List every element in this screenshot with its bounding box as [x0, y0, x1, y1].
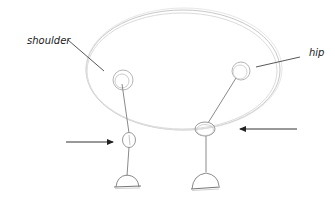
lower-front-leg [127, 147, 129, 176]
shoulder-label: shoulder [27, 36, 70, 46]
sketch-diagram: shoulder hip [0, 0, 335, 199]
front-knee-joint [123, 133, 136, 148]
body-ellipse [86, 8, 282, 130]
shoulder-joint [113, 70, 133, 90]
upper-front-leg [122, 84, 129, 133]
upper-hind-leg [208, 78, 236, 123]
hind-foot [191, 173, 220, 191]
front-leg [113, 70, 141, 189]
hind-leg [191, 62, 250, 191]
front-foot [114, 175, 141, 189]
hip-label: hip [309, 48, 324, 58]
hip-joint [232, 62, 250, 80]
